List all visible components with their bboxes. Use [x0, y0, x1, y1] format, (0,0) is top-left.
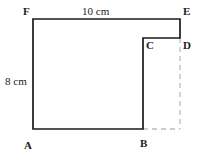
vertex-label-a: A	[24, 140, 32, 151]
vertex-label-e: E	[183, 6, 190, 17]
figure-canvas	[0, 0, 199, 162]
vertex-label-c: C	[146, 40, 154, 51]
polygon-outline-abcdef	[33, 19, 180, 129]
vertex-label-d: D	[183, 40, 191, 51]
dimension-label-top: 10 cm	[82, 6, 109, 17]
vertex-label-f: F	[23, 6, 30, 17]
dimension-label-left: 8 cm	[5, 76, 27, 87]
geometry-figure: F E C D A B 10 cm 8 cm	[0, 0, 199, 162]
vertex-label-b: B	[140, 138, 147, 149]
